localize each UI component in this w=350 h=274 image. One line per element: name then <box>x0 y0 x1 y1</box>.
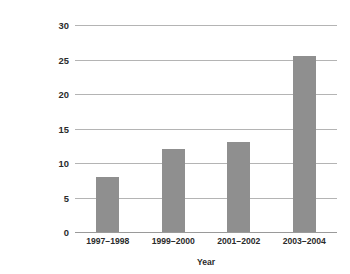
x-axis-title: Year <box>75 257 337 267</box>
bar <box>96 177 119 232</box>
bar <box>293 56 316 232</box>
bar-chart: Contributions from lobbyists to lawmaker… <box>0 0 350 274</box>
y-tick-label: 5 <box>64 192 69 203</box>
x-axis-labels: 1997–19981999–20002001–20022003–2004 <box>75 236 337 250</box>
y-tick-label: 30 <box>59 20 69 31</box>
x-tick-label: 1997–1998 <box>86 236 129 246</box>
y-tick-label: 0 <box>64 227 69 238</box>
x-tick-label: 2001–2002 <box>217 236 260 246</box>
gridline: 0 <box>75 232 337 233</box>
y-tick-label: 25 <box>59 54 69 65</box>
bar-series <box>75 25 337 232</box>
bar <box>162 149 185 232</box>
y-tick-label: 15 <box>59 123 69 134</box>
y-tick-label: 10 <box>59 158 69 169</box>
bar <box>227 142 250 232</box>
x-tick-label: 2003–2004 <box>283 236 326 246</box>
plot-area: 051015202530 <box>75 25 337 232</box>
x-tick-label: 1999–2000 <box>152 236 195 246</box>
y-tick-label: 20 <box>59 89 69 100</box>
